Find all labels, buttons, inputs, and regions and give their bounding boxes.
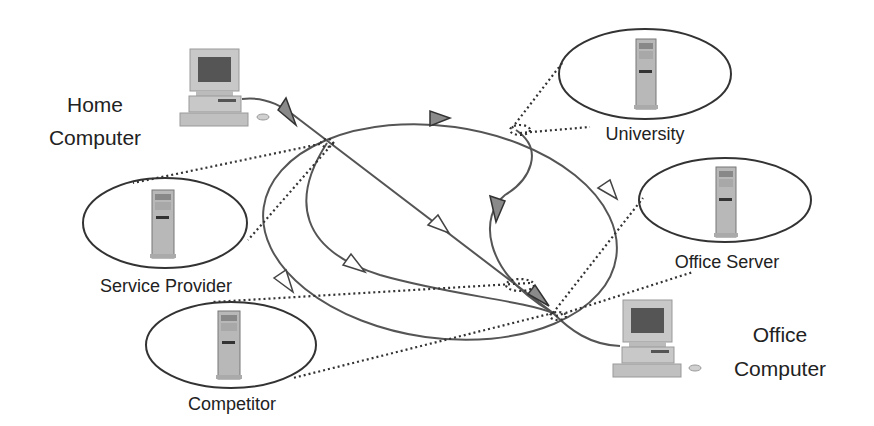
tap-office-hub-to-competitor [293, 313, 553, 378]
service-provider-label: Service Provider [100, 276, 232, 296]
network-routing-diagram: Home Computer Service Provider Competito… [0, 0, 874, 426]
arrow-filled-university-down [490, 196, 505, 222]
tap-university-hub-to-university [512, 62, 563, 128]
tap-office-hub-to-office-server [553, 198, 643, 313]
arrow-open-right-arc [598, 180, 617, 199]
desktop-computer-icon [613, 300, 701, 377]
office-computer-label-line1: Office [753, 323, 807, 346]
office-server-label: Office Server [675, 252, 780, 272]
desktop-computer-icon [180, 49, 269, 126]
arrow-open-diagonal [428, 215, 449, 233]
university-label: University [605, 124, 684, 144]
network-ellipse [249, 102, 631, 361]
server-tower-icon [634, 39, 658, 109]
route-inner-left-arc [306, 143, 553, 313]
arrow-filled-home-out [278, 98, 296, 125]
server-tower-icon [714, 167, 738, 237]
home-computer-label-line1: Home [67, 93, 123, 116]
arrow-open-outer-lower [274, 270, 293, 292]
arrow-filled-top-arc [430, 111, 450, 126]
tap-office-hub-to-service-provider-label [213, 283, 530, 302]
server-tower-icon [216, 311, 242, 379]
server-tower-icon [150, 190, 176, 258]
office-computer-label-line2: Computer [734, 357, 826, 380]
arrow-open-inner-lower [343, 254, 365, 272]
competitor-label: Competitor [188, 394, 276, 414]
home-computer-label-line2: Computer [49, 126, 141, 149]
